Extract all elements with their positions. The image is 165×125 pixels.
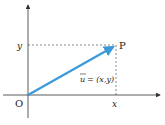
vector-arrow bbox=[28, 47, 113, 95]
vector-diagram: O P x y u = (x,y) bbox=[0, 0, 165, 125]
vector-equation-label: = (x,y) bbox=[87, 75, 114, 84]
vector-name-label: u bbox=[80, 75, 85, 84]
point-label: P bbox=[119, 40, 126, 51]
x-tick-label: x bbox=[112, 99, 117, 109]
origin-label: O bbox=[15, 98, 23, 109]
y-tick-label: y bbox=[16, 41, 23, 51]
